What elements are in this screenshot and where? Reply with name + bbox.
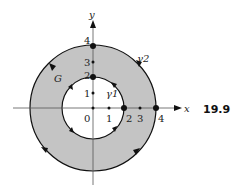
x-point-2 (121, 105, 127, 111)
x-tick-1 (108, 107, 111, 110)
x-tick-label-0: 0 (84, 113, 90, 124)
x-axis-label: x (184, 103, 190, 114)
x-point-4 (153, 105, 159, 111)
y-tick-3 (92, 61, 95, 64)
y-axis-label: y (88, 9, 95, 20)
x-tick-3 (139, 107, 142, 110)
outer-arrow-icon-ll (41, 147, 48, 153)
y-tick-1 (92, 92, 95, 95)
x-tick-label-3: 3 (137, 113, 143, 124)
x-tick-label-4: 4 (158, 113, 164, 124)
y-tick-label-3: 3 (84, 57, 90, 68)
annulus-diagram: x y 0 1 2 3 4 1 2 3 4 G γ1 γ2 19.9 (0, 0, 233, 195)
y-tick-label-2: 2 (84, 70, 90, 81)
y-tick-label-4: 4 (84, 35, 90, 46)
y-tick-label-1: 1 (84, 88, 90, 99)
x-tick-label-2: 2 (126, 113, 132, 124)
x-axis-arrow-icon (174, 105, 182, 111)
origin-point (92, 107, 95, 110)
y-axis-arrow-icon (90, 20, 96, 28)
x-tick-label-1: 1 (106, 113, 112, 124)
gamma1-label: γ1 (106, 88, 118, 99)
figure-number: 19.9 (203, 103, 230, 116)
region-label-g: G (54, 73, 62, 84)
y-point-4 (90, 43, 96, 49)
y-point-2 (90, 74, 96, 80)
